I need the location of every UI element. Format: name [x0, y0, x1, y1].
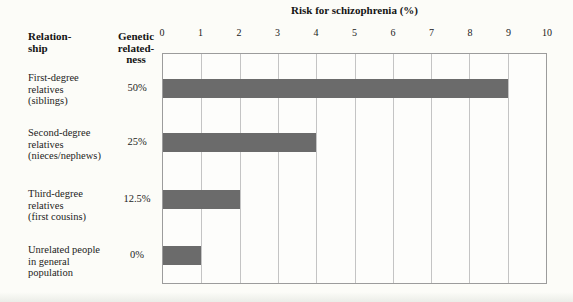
x-tick-2: 2: [237, 27, 242, 38]
x-tick-3: 3: [275, 27, 280, 38]
plot-area: [162, 53, 547, 284]
relationship-header-line1: Relation-: [28, 31, 71, 43]
bar-1: [163, 79, 508, 98]
x-tick-1: 1: [198, 27, 203, 38]
relatedness-header-line3: ness: [106, 54, 166, 66]
row-label-2-line-3: (nieces/nephews): [28, 150, 138, 162]
bar-4: [163, 246, 201, 265]
x-tick-5: 5: [352, 27, 357, 38]
relationship-header-line2: ship: [28, 43, 71, 55]
relatedness-value-2: 25%: [110, 136, 164, 147]
x-tick-8: 8: [468, 27, 473, 38]
x-axis-tick-labels: 012345678910: [162, 27, 547, 39]
relatedness-value-1: 50%: [110, 82, 164, 93]
gridline-9: [508, 54, 509, 283]
row-label-1-line-3: (siblings): [28, 95, 138, 107]
relationship-column-header: Relation- ship: [28, 31, 71, 54]
x-tick-4: 4: [314, 27, 319, 38]
relatedness-header-line1: Genetic: [106, 31, 166, 43]
chart-title: Risk for schizophrenia (%): [162, 4, 547, 16]
x-tick-0: 0: [160, 27, 165, 38]
x-tick-9: 9: [506, 27, 511, 38]
relatedness-value-4: 0%: [110, 249, 164, 260]
relatedness-value-3: 12.5%: [110, 193, 164, 204]
row-label-4-line-3: population: [28, 267, 138, 279]
genetic-relatedness-column-header: Genetic related- ness: [106, 31, 166, 66]
x-tick-7: 7: [429, 27, 434, 38]
row-label-3-line-3: (first cousins): [28, 211, 138, 223]
bar-3: [163, 190, 240, 209]
bar-2: [163, 133, 316, 152]
x-tick-6: 6: [391, 27, 396, 38]
schizophrenia-risk-figure: Risk for schizophrenia (%) Relation- shi…: [0, 0, 573, 302]
x-tick-10: 10: [542, 27, 552, 38]
